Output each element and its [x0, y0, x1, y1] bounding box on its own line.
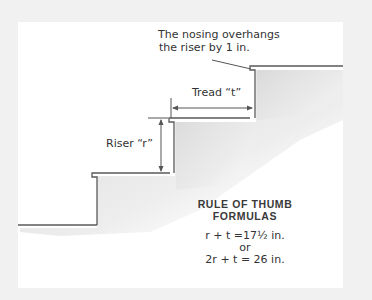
- formulas-title-line2: FORMULAS: [190, 210, 300, 222]
- nosing-note: The nosing overhangs the riser by 1 in.: [158, 28, 288, 54]
- riser-label: Riser “r”: [106, 137, 153, 150]
- rule-of-thumb-formulas: RULE OF THUMB FORMULAS r + t =17½ in. or…: [190, 198, 300, 266]
- formulas-title-line1: RULE OF THUMB: [190, 198, 300, 210]
- tread-label: Tread “t”: [192, 86, 241, 99]
- formula-2: 2r + t = 26 in.: [190, 254, 300, 266]
- nosing-note-line2: the riser by 1 in.: [158, 41, 288, 54]
- tread-dimension: [171, 98, 253, 118]
- nosing-leader-line: [212, 60, 251, 69]
- nosing-note-line1: The nosing overhangs: [158, 28, 288, 41]
